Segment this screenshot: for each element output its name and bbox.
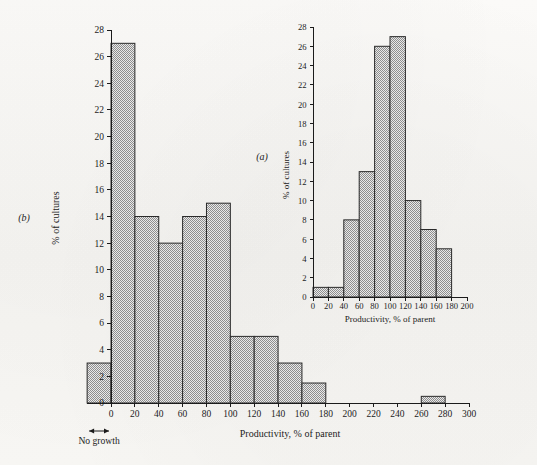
x-tick-label: 20 [130,409,140,419]
x-tick-label: 40 [340,301,349,311]
figure-root: 0246810121416182022242628020406080100120… [0,0,537,465]
histogram-bar [328,287,343,297]
histogram-bar [159,243,183,403]
y-tick-label: 8 [99,292,104,302]
x-tick-label: 80 [370,301,379,311]
x-tick-label: 180 [319,409,334,419]
x-tick-label: 160 [430,301,443,311]
y-tick-label: 12 [298,177,307,187]
histogram-bar [254,336,278,403]
y-tick-label: 0 [99,398,104,408]
histogram-bar [375,46,390,297]
y-tick-label: 6 [302,235,307,245]
x-tick-label: 200 [343,409,358,419]
histogram-bar [390,37,405,297]
x-axis-title: Productivity, % of parent [240,428,341,439]
no-growth-label: No growth [78,435,120,446]
histogram-bar [344,220,359,297]
arrow-head-right [104,428,109,433]
y-tick-label: 4 [302,254,307,264]
x-tick-label: 0 [109,409,114,419]
x-tick-label: 0 [311,301,315,311]
histogram-bar [421,230,436,298]
x-axis-title: Productivity, % of parent [345,314,436,324]
histogram-bar [278,363,302,403]
y-tick-label: 2 [302,273,306,283]
x-tick-label: 180 [445,301,458,311]
x-tick-label: 240 [390,409,405,419]
x-tick-label: 60 [178,409,188,419]
x-tick-label: 140 [271,409,286,419]
x-tick-label: 100 [384,301,397,311]
histogram-bar [302,383,326,403]
y-tick-label: 18 [95,159,105,169]
x-tick-label: 300 [462,409,477,419]
y-tick-label: 22 [298,80,307,90]
x-tick-label: 280 [438,409,453,419]
y-tick-label: 4 [99,345,104,355]
x-tick-label: 260 [414,409,429,419]
y-tick-label: 0 [302,292,306,302]
arrow-head-left [89,428,94,433]
x-tick-label: 60 [355,301,364,311]
y-tick-label: 14 [95,212,105,222]
y-tick-label: 26 [298,42,307,52]
panel-label: (b) [18,212,30,224]
y-tick-label: 20 [95,132,105,142]
y-tick-label: 24 [95,79,105,89]
y-tick-label: 14 [298,157,307,167]
y-tick-label: 24 [298,61,307,71]
x-tick-label: 220 [366,409,381,419]
histogram-bar [405,201,420,297]
histogram-bar [87,363,111,403]
histogram-bar [206,203,230,403]
histogram-figure: 0246810121416182022242628020406080100120… [0,0,537,465]
y-tick-label: 28 [95,25,105,35]
x-tick-label: 200 [461,301,474,311]
histogram-bar [359,172,374,297]
y-tick-label: 2 [99,372,104,382]
y-tick-label: 10 [298,196,307,206]
x-tick-label: 80 [202,409,212,419]
histogram-bar [421,396,445,403]
x-tick-label: 160 [295,409,310,419]
y-tick-label: 6 [99,318,104,328]
y-tick-label: 10 [95,265,105,275]
x-tick-label: 120 [247,409,262,419]
histogram-bar [111,43,135,403]
x-tick-label: 100 [223,409,238,419]
histogram-bar [436,249,451,297]
y-tick-label: 20 [298,100,307,110]
y-tick-label: 28 [298,22,307,32]
y-axis-title: % of cultures [281,151,291,199]
y-tick-label: 26 [95,52,105,62]
y-tick-label: 22 [95,105,105,115]
histogram-bar [135,217,159,404]
panel-a-chart: 0246810121416182022242628020406080100120… [256,22,473,324]
panel-label: (a) [256,151,268,163]
y-tick-label: 8 [302,215,306,225]
y-tick-label: 16 [298,138,307,148]
histogram-bar [313,287,328,297]
x-tick-label: 40 [154,409,164,419]
x-tick-label: 120 [399,301,412,311]
x-tick-label: 20 [324,301,333,311]
histogram-bar [230,336,254,403]
y-tick-label: 18 [298,119,307,129]
y-tick-label: 16 [95,185,105,195]
histogram-bar [183,217,207,404]
x-tick-label: 140 [414,301,427,311]
y-tick-label: 12 [95,239,105,249]
y-axis-title: % of cultures [50,191,61,244]
